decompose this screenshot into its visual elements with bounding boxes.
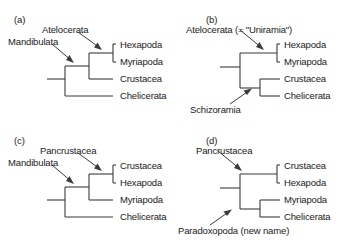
- arthropod-phylogeny-figure: (a): [0, 0, 364, 243]
- panel-d: (d) Pancrustacea Paradoxopoda (new name)…: [182, 121, 364, 242]
- panel-d-taxon-1: Crustacea: [284, 160, 326, 171]
- panel-a-taxon-2: Myriapoda: [120, 56, 163, 67]
- panel-a-clade-label-mandibulata: Mandibulata: [8, 36, 58, 47]
- panel-a-clade-label-atelocerata: Atelocerata: [42, 24, 88, 35]
- panel-d-taxon-4: Chelicerata: [284, 211, 330, 222]
- panel-b-taxon-4: Chelicerata: [284, 90, 330, 101]
- panel-b-cladogram: [182, 0, 364, 121]
- panel-d-cladogram: [182, 121, 364, 242]
- panel-c: (c) Pancrustacea Mandibulata Crustacea H…: [0, 121, 182, 242]
- panel-c-clade-label-mandibulata: Mandibulata: [8, 157, 58, 168]
- panel-d-clade-label-pancrustacea: Pancrustacea: [196, 145, 252, 156]
- panel-d-taxon-2: Hexapoda: [284, 177, 326, 188]
- panel-a-taxon-3: Crustacea: [120, 73, 162, 84]
- panel-b-clade-label-schizoramia: Schizoramia: [190, 104, 241, 115]
- panel-a: (a): [0, 0, 182, 121]
- panel-b: (b) Atelocerata (= "Uniramia": [182, 0, 364, 121]
- panel-a-taxon-4: Chelicerata: [120, 90, 166, 101]
- panel-c-taxon-3: Myriapoda: [120, 194, 163, 205]
- panel-d-clade-label-paradoxopoda: Paradoxopoda (new name): [178, 225, 289, 236]
- panel-c-taxon-2: Hexapoda: [120, 177, 162, 188]
- panel-c-taxon-4: Chelicerata: [120, 211, 166, 222]
- panel-b-clade-label-atelocerata: Atelocerata (= "Uniramia"): [186, 24, 292, 35]
- panel-d-taxon-3: Myriapoda: [284, 194, 327, 205]
- panel-a-taxon-1: Hexapoda: [120, 39, 162, 50]
- panel-b-taxon-3: Crustacea: [284, 73, 326, 84]
- panel-b-taxon-2: Myriapoda: [284, 56, 327, 67]
- panel-b-taxon-1: Hexapoda: [284, 39, 326, 50]
- panel-c-taxon-1: Crustacea: [120, 160, 162, 171]
- panel-c-clade-label-pancrustacea: Pancrustacea: [40, 145, 96, 156]
